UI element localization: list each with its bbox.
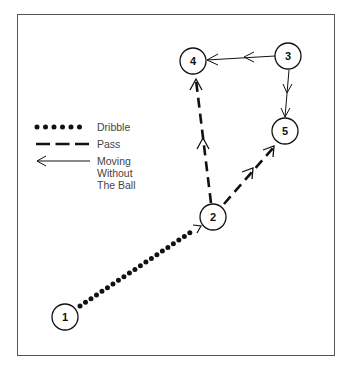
legend-label-moving-1: Moving — [97, 155, 131, 167]
arrowhead-icon — [193, 225, 201, 233]
legend: Dribble Pass Moving Without The Ball — [36, 121, 136, 191]
legend-label-moving-3: The Ball — [97, 179, 136, 191]
diagram-canvas: 1 2 3 4 5 Dribble Pass — [0, 0, 346, 366]
move-path-3-to-5 — [281, 70, 292, 117]
legend-item-pass: Pass — [36, 138, 120, 150]
legend-label-dribble: Dribble — [97, 121, 130, 133]
player-4: 4 — [180, 48, 206, 74]
legend-item-dribble: Dribble — [37, 121, 130, 133]
move-path-3-to-4 — [207, 52, 275, 65]
player-1: 1 — [52, 304, 78, 330]
player-3: 3 — [275, 43, 301, 69]
player-label: 1 — [62, 311, 68, 323]
pass-path-2-to-5 — [224, 146, 274, 204]
dribble-path-1-to-2 — [80, 225, 201, 306]
legend-label-moving-2: Without — [97, 167, 133, 179]
play-diagram: 1 2 3 4 5 Dribble Pass — [0, 0, 346, 366]
player-5: 5 — [272, 118, 298, 144]
pass-path-2-to-4 — [190, 79, 211, 203]
player-label: 5 — [282, 125, 288, 137]
player-label: 3 — [285, 50, 291, 62]
legend-label-pass: Pass — [97, 138, 120, 150]
player-label: 2 — [210, 211, 216, 223]
player-label: 4 — [190, 55, 197, 67]
legend-item-moving: Moving Without The Ball — [37, 155, 136, 191]
player-2: 2 — [200, 204, 226, 230]
